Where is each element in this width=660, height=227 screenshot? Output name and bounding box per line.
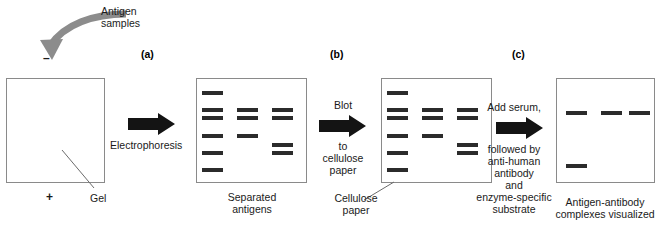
gel-label: Gel [90,192,106,204]
band [387,108,408,112]
band [629,111,650,115]
blot-label-below: to cellulose paper [313,140,373,176]
band [272,151,293,155]
band [272,116,293,120]
band [422,116,443,120]
band [202,134,223,138]
band [202,151,223,155]
band [387,134,408,138]
panel-label-b: (b) [330,48,343,60]
gel-leader-line [60,148,108,190]
detect-label-above: Add serum, [478,101,550,113]
visualized-complexes-caption: Antigen-antibody complexes visualized [551,196,659,220]
band [422,134,443,138]
blot-label-above: Blot [318,99,368,111]
separated-antigens-caption: Separated antigens [206,191,298,215]
band [202,108,223,112]
band [202,168,223,172]
band [457,116,478,120]
band [387,91,408,95]
panel-label-a: (a) [141,48,154,60]
visualized-complexes-box [556,78,655,183]
band [272,108,293,112]
panel-label-c: (c) [512,48,525,60]
band [202,91,223,95]
separated-antigens-box [196,78,307,183]
band [566,111,587,115]
antigen-samples-label: Antigen samples [101,5,140,29]
band [272,143,293,147]
positive-electrode-label: + [46,190,53,204]
western-blot-diagram: Antigen samples – (a) (b) (c) + Gel Elec… [0,0,660,227]
band [387,168,408,172]
blot-arrow-icon [319,115,367,137]
detect-label-below: followed by anti-human antibody and enzy… [472,143,556,215]
cellulose-paper-label: Cellulose paper [325,192,387,216]
band [202,116,223,120]
band [422,108,443,112]
negative-electrode-label: – [43,51,50,65]
electrophoresis-label: Electrophoresis [110,139,182,151]
detect-arrow-icon [496,117,544,139]
band [387,116,408,120]
band [601,111,622,115]
band [237,108,258,112]
band [457,108,478,112]
electrophoresis-arrow-icon [128,113,176,135]
band [566,164,587,168]
band [237,116,258,120]
band [387,151,408,155]
band [237,134,258,138]
